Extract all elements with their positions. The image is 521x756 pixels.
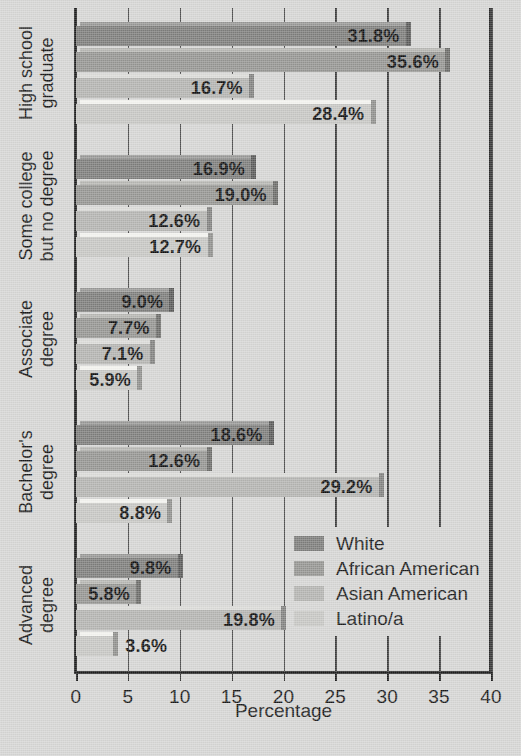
category-label-line: Some college [16, 131, 37, 281]
bar-end-cap [269, 421, 274, 445]
bar-end-cap [249, 74, 254, 98]
bar-value-label: 19.0% [215, 185, 267, 206]
x-tick-mark [284, 672, 286, 681]
category-label-line: degree [37, 264, 58, 414]
y-axis-category-label: Some collegebut no degree [16, 131, 58, 281]
bar [76, 632, 119, 658]
bar-value-label: 5.9% [89, 370, 131, 391]
x-tick-mark [76, 672, 78, 681]
category-label-line: Bachelor's [16, 397, 37, 547]
bar-end-cap [273, 181, 278, 205]
bar-value-label: 16.7% [191, 78, 243, 99]
bar-value-label: 12.6% [148, 451, 200, 472]
category-label-line: High school [16, 0, 37, 148]
legend-swatch [294, 586, 324, 601]
bar-end-cap [406, 22, 411, 46]
bar-value-label: 28.4% [312, 104, 364, 125]
legend-label: Latino/a [336, 608, 404, 630]
x-tick-mark [180, 672, 182, 681]
bar-value-label: 5.8% [88, 584, 130, 605]
bar-end-cap [379, 473, 384, 497]
y-axis-category-label: Advanceddegree [16, 530, 58, 680]
bar-end-cap [169, 288, 174, 312]
bar-end-cap [150, 340, 155, 364]
bar-body [76, 636, 113, 656]
bar-end-cap [137, 366, 142, 390]
legend-label: Asian American [336, 583, 468, 605]
legend-swatch [294, 536, 324, 551]
bar-value-label: 16.9% [193, 159, 245, 180]
bar-value-label: 29.2% [320, 477, 372, 498]
bar-end-cap [208, 233, 213, 257]
chart-legend: WhiteAfrican AmericanAsian AmericanLatin… [290, 527, 486, 636]
bar-value-label: 31.8% [347, 26, 399, 47]
x-tick-mark [232, 672, 234, 681]
x-tick-mark [439, 672, 441, 681]
bar-value-label: 9.0% [121, 292, 163, 313]
legend-swatch [294, 561, 324, 576]
bar-end-cap [251, 155, 256, 179]
bar-end-cap [371, 100, 376, 124]
legend-swatch [294, 611, 324, 626]
bar-value-label: 9.8% [130, 558, 172, 579]
category-label-line: Associate [16, 264, 37, 414]
x-tick-mark [335, 672, 337, 681]
legend-item: Latino/a [294, 606, 480, 631]
category-label-line: degree [37, 397, 58, 547]
bar-end-cap [207, 207, 212, 231]
category-label-line: but no degree [37, 131, 58, 281]
category-label-line: graduate [37, 0, 58, 148]
bar-end-cap [167, 499, 172, 523]
x-tick-mark [387, 672, 389, 681]
bar-value-label: 19.8% [223, 610, 275, 631]
bar-value-label: 3.6% [125, 636, 167, 657]
bar-end-cap [207, 447, 212, 471]
x-tick-mark [491, 672, 493, 681]
y-axis-category-label: Associatedegree [16, 264, 58, 414]
bar-end-cap [156, 314, 161, 338]
bar-value-label: 12.7% [149, 237, 201, 258]
bar-value-label: 7.7% [108, 318, 150, 339]
bar-end-cap [113, 632, 118, 656]
category-label-line: Advanced [16, 530, 37, 680]
bar-value-label: 8.8% [119, 503, 161, 524]
x-tick-mark [128, 672, 130, 681]
bar-top-face [80, 632, 117, 636]
legend-item: White [294, 531, 480, 556]
bar-value-label: 12.6% [148, 211, 200, 232]
bar-end-cap [136, 580, 141, 604]
legend-label: White [336, 533, 385, 555]
bar-value-label: 7.1% [102, 344, 144, 365]
x-axis-title: Percentage [76, 700, 491, 722]
bar-end-cap [445, 48, 450, 72]
bar-value-label: 18.6% [210, 425, 262, 446]
y-axis-category-label: Bachelor'sdegree [16, 397, 58, 547]
category-label-line: degree [37, 530, 58, 680]
legend-item: Asian American [294, 581, 480, 606]
bar-end-cap [281, 606, 286, 630]
y-axis-category-label: High schoolgraduate [16, 0, 58, 148]
bar-end-cap [178, 554, 183, 578]
legend-item: African American [294, 556, 480, 581]
legend-label: African American [336, 558, 480, 580]
bar-chart: 31.8%35.6%16.7%28.4%16.9%19.0%12.6%12.7%… [0, 0, 521, 756]
gridline [491, 8, 493, 672]
bar-value-label: 35.6% [387, 52, 439, 73]
